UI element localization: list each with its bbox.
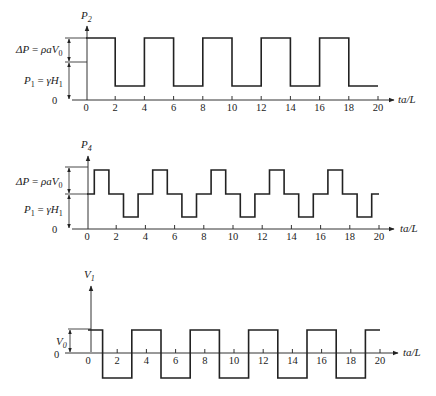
p4-x-ticks: 02468101214161820 [84, 225, 384, 242]
v1-x-ticks: 02468101214161820 [85, 349, 385, 366]
x-tick-label: 18 [344, 102, 355, 113]
x-tick-label: 8 [200, 102, 205, 113]
x-tick-label: 12 [257, 231, 268, 242]
p4-y-axis-label: P4 [80, 138, 92, 153]
v1-y-zero-label: 0 [54, 349, 59, 360]
x-tick-label: 18 [345, 231, 356, 242]
x-tick-label: 14 [287, 355, 298, 366]
v1-x-axis-label: ta/L [403, 346, 421, 358]
x-tick-label: 12 [258, 355, 269, 366]
p2-x-ticks: 02468101214161820 [83, 96, 383, 113]
x-tick-label: 10 [229, 355, 240, 366]
x-tick-label: 4 [144, 355, 150, 366]
v1-waveform [88, 330, 380, 378]
x-tick-label: 6 [173, 355, 178, 366]
x-tick-label: 6 [172, 231, 177, 242]
x-tick-label: 12 [256, 102, 267, 113]
x-tick-label: 4 [143, 231, 149, 242]
x-tick-label: 2 [113, 102, 118, 113]
x-tick-label: 10 [228, 231, 239, 242]
p4-x-axis-label: ta/L [400, 222, 418, 234]
x-tick-label: 16 [315, 231, 326, 242]
x-tick-label: 0 [85, 355, 90, 366]
x-tick-label: 8 [202, 355, 207, 366]
p4-p1-label: P1 = γH1 [23, 203, 63, 218]
x-tick-label: 8 [201, 231, 206, 242]
x-tick-label: 6 [171, 102, 176, 113]
x-tick-label: 16 [314, 102, 325, 113]
panel-p2: P2 ΔP = ρaV0 P1 = γH1 0 ta/L 02468101214… [15, 9, 416, 113]
water-hammer-figure: P2 ΔP = ρaV0 P1 = γH1 0 ta/L 02468101214… [0, 0, 436, 396]
p2-y-zero-label: 0 [52, 95, 57, 106]
p4-delta-p-label: ΔP = ρaV0 [15, 175, 62, 190]
x-tick-label: 20 [374, 231, 385, 242]
x-tick-label: 4 [142, 102, 148, 113]
p2-delta-p-label: ΔP = ρaV0 [15, 43, 62, 58]
p4-y-zero-label: 0 [52, 224, 57, 235]
x-tick-label: 10 [227, 102, 238, 113]
x-tick-label: 0 [83, 102, 88, 113]
x-tick-label: 14 [285, 102, 296, 113]
x-tick-label: 14 [286, 231, 297, 242]
x-tick-label: 2 [114, 231, 119, 242]
p4-waveform [87, 170, 379, 217]
x-tick-label: 20 [375, 355, 386, 366]
x-tick-label: 0 [84, 231, 89, 242]
panel-v1: V1 V0 0 ta/L 02468101214161820 [54, 268, 421, 378]
p2-p1-label: P1 = γH1 [23, 74, 63, 89]
panel-p4: P4 ΔP = ρaV0 P1 = γH1 0 ta/L 02468101214… [15, 138, 418, 242]
p2-x-axis-label: ta/L [398, 93, 416, 105]
v1-v0-label: V0 [56, 335, 67, 350]
p2-waveform [86, 38, 378, 86]
x-tick-label: 18 [346, 355, 357, 366]
x-tick-label: 2 [115, 355, 120, 366]
v1-y-axis-label: V1 [84, 268, 95, 283]
p2-y-axis-label: P2 [80, 9, 92, 24]
x-tick-label: 16 [316, 355, 327, 366]
x-tick-label: 20 [373, 102, 384, 113]
